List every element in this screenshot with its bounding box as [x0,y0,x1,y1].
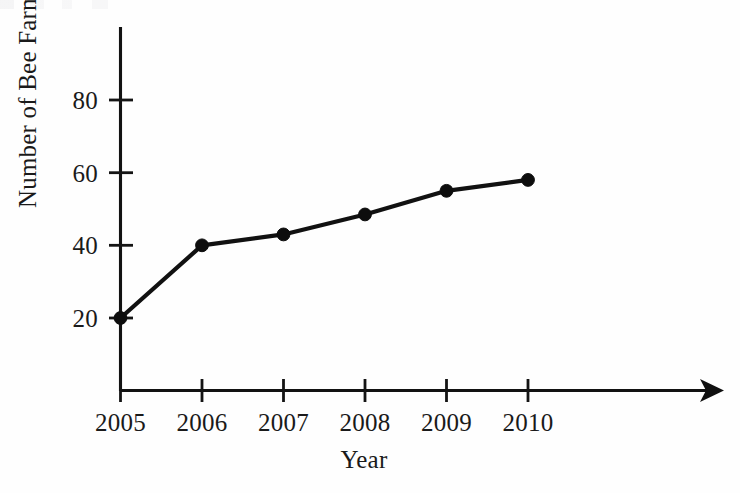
x-tick-label-2006: 2006 [177,410,228,435]
data-point-2007 [277,228,290,241]
x-tick-label-2007: 2007 [258,410,309,435]
bee-farms-data-markers [114,174,534,325]
x-tick-label-2010: 2010 [503,410,554,435]
data-point-2005 [114,312,127,325]
data-point-2010 [522,174,535,187]
data-point-2008 [359,208,372,221]
data-point-2006 [196,239,209,252]
y-axis-title: Number of Bee Farms [14,0,42,208]
x-tick-label-2005: 2005 [95,410,146,435]
y-tick-label-40: 40 [26,233,98,258]
data-point-2009 [440,184,453,197]
x-tick-label-2009: 2009 [421,410,472,435]
y-tick-label-20: 20 [26,306,98,331]
x-axis-title: Year [0,446,740,474]
line-chart-figure: 80 60 40 20 2005 2006 2007 2008 2009 201… [0,0,740,493]
bee-farms-line-series [121,180,529,318]
x-axis-title-text: Year [341,446,388,473]
x-tick-label-2008: 2008 [340,410,391,435]
